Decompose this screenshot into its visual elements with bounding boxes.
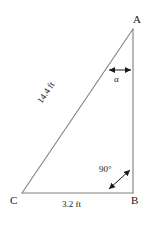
base-length-label: 3.2 ft	[62, 200, 81, 209]
vertex-label-b: B	[131, 195, 138, 206]
angle-alpha-label: α	[114, 75, 119, 84]
right-angle-arrow	[109, 170, 130, 189]
vertex-label-a: A	[133, 14, 141, 25]
side-hypotenuse-line	[22, 29, 133, 193]
angle-right-label: 90°	[99, 165, 112, 174]
vertex-label-c: C	[10, 195, 17, 206]
triangle-svg	[0, 0, 150, 225]
geometry-figure: A B C 3.2 ft 14.4 ft α 90°	[0, 0, 150, 225]
